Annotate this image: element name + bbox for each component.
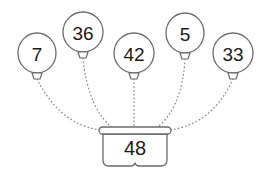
basket-label: 48	[124, 137, 146, 159]
basket-rim	[99, 127, 171, 134]
balloon-knot-icon	[78, 52, 88, 58]
string-4	[154, 59, 185, 130]
string-2	[83, 58, 115, 130]
diagram-canvas: 7 36 42 5 33 48	[0, 0, 266, 179]
balloon-33[interactable]: 33	[213, 33, 253, 79]
balloon-label: 7	[32, 44, 43, 65]
balloon-label: 36	[72, 23, 93, 44]
balloon-label: 42	[123, 44, 144, 65]
balloon-36[interactable]: 36	[63, 12, 103, 58]
balloon-knot-icon	[228, 73, 238, 79]
string-5	[169, 79, 233, 130]
balloon-42[interactable]: 42	[114, 33, 154, 79]
balloon-knot-icon	[129, 73, 139, 79]
balloon-diagram: 7 36 42 5 33 48	[0, 0, 266, 179]
string-1	[37, 79, 101, 130]
balloon-knot-icon	[180, 53, 190, 59]
basket[interactable]: 48	[99, 127, 171, 166]
balloon-7[interactable]: 7	[18, 33, 56, 79]
balloon-label: 33	[222, 44, 243, 65]
balloon-label: 5	[180, 24, 191, 45]
balloon-knot-icon	[32, 73, 42, 79]
balloon-5[interactable]: 5	[166, 13, 204, 59]
